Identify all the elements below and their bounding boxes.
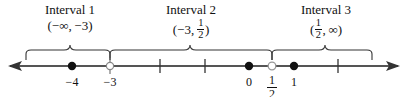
endpoint-minus-3: −3: [177, 22, 191, 37]
endpoint-minus-3: −3: [74, 18, 88, 33]
paren-close: ): [205, 22, 209, 37]
point-filled-one: [290, 62, 298, 70]
interval-2-notation: (−3, 12): [121, 18, 261, 40]
infinity-symbol: ∞: [328, 22, 337, 37]
interval-1-notation: (−∞, −3): [0, 19, 140, 33]
fraction-one-half: 12: [315, 18, 322, 40]
brace-interval-3: [272, 45, 372, 60]
point-filled-minus-4: [68, 62, 76, 70]
axis-label-one: 1: [279, 76, 309, 89]
paren-open: (: [310, 22, 314, 37]
point-open-minus-3: [106, 62, 113, 69]
negative-infinity-symbol: −∞: [52, 18, 69, 33]
paren-close: ): [88, 18, 92, 33]
number-line-interval-figure: Interval 1 (−∞, −3) Interval 2 (−3, 12) …: [0, 0, 407, 97]
axis-label-minus-4: −4: [52, 76, 92, 89]
fraction-one-half: 12: [197, 18, 204, 40]
brace-interval-1: [26, 45, 110, 60]
interval-3-notation: (12, ∞): [256, 18, 396, 40]
interval-2-title: Interval 2: [121, 3, 261, 17]
axis-label-minus-3: −3: [90, 76, 130, 89]
point-filled-zero: [245, 62, 253, 70]
comma: ,: [68, 18, 71, 33]
paren-close: ): [338, 22, 342, 37]
comma: ,: [323, 22, 326, 37]
comma: ,: [191, 22, 194, 37]
fraction-one-half: 12: [267, 74, 277, 97]
interval-1-title: Interval 1: [0, 3, 140, 17]
interval-3-title: Interval 3: [256, 3, 396, 17]
brace-interval-2: [110, 45, 272, 60]
point-open-one-half: [268, 62, 276, 70]
